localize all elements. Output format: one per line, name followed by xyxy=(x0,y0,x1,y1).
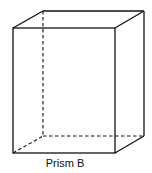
front-face xyxy=(13,28,115,153)
prism-diagram xyxy=(0,0,152,173)
edge-top-left-depth xyxy=(13,11,43,28)
hidden-edge-bottom-left-depth xyxy=(13,136,43,153)
edge-bottom-right-depth xyxy=(115,136,144,153)
figure-label: Prism B xyxy=(0,157,130,169)
edge-top-right-depth xyxy=(115,11,144,28)
